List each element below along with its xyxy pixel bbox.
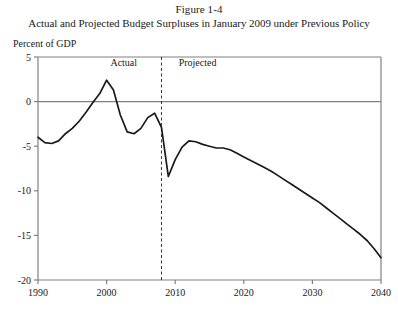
y-tick-label: 0 (26, 96, 31, 107)
annotation-actual: Actual (110, 57, 137, 68)
y-tick-label: -15 (18, 230, 31, 241)
y-tick-label: -5 (23, 141, 31, 152)
y-tick-label: -20 (18, 275, 31, 286)
x-tick-label: 2010 (165, 287, 185, 298)
x-tick-label: 2020 (234, 287, 254, 298)
figure-panel: Figure 1-4 Actual and Projected Budget S… (0, 0, 398, 314)
y-axis-ticks: 50-5-10-15-20 (18, 52, 38, 286)
x-tick-label: 1990 (28, 287, 48, 298)
y-tick-label: 5 (26, 52, 31, 63)
surplus-data-line (38, 80, 381, 258)
x-tick-label: 2030 (302, 287, 322, 298)
budget-surplus-line-chart: 50-5-10-15-20 199020002010202020302040 A… (0, 0, 398, 314)
x-tick-label: 2000 (97, 287, 117, 298)
x-axis-ticks: 199020002010202020302040 (28, 280, 391, 298)
x-tick-label: 2040 (371, 287, 391, 298)
y-tick-label: -10 (18, 185, 31, 196)
plot-frame (38, 57, 381, 280)
annotation-projected: Projected (179, 57, 217, 68)
